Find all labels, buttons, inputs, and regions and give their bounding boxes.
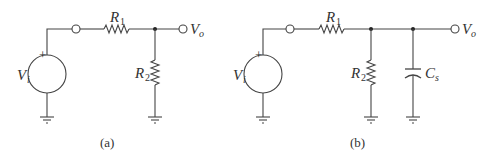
input-terminal-icon: [72, 25, 80, 33]
resistor-r2-icon: [367, 60, 375, 85]
polarity-plus-label: +: [255, 47, 262, 62]
ground-icon: [364, 117, 378, 123]
r1-label-main: R: [325, 9, 335, 25]
resistor-r1-icon: [104, 25, 129, 33]
circuit-a: + V i R 1 R 2 V o (a): [17, 9, 204, 150]
ground-icon: [148, 117, 162, 123]
output-label-sub: o: [471, 28, 476, 39]
resistor-r2-icon: [151, 60, 159, 85]
r1-label-main: R: [109, 9, 119, 25]
ground-icon: [256, 117, 270, 123]
caption-a: (a): [100, 135, 114, 150]
input-terminal-icon: [286, 25, 294, 33]
source-label-sub: i: [243, 74, 246, 85]
r2-label-main: R: [350, 65, 360, 81]
r2-label-sub: 2: [145, 72, 150, 83]
polarity-plus-label: +: [39, 47, 46, 62]
output-label-sub: o: [199, 28, 204, 39]
output-terminal-icon: [179, 25, 187, 33]
r1-label-sub: 1: [120, 16, 125, 27]
r2-label-main: R: [134, 65, 144, 81]
ground-icon: [40, 117, 54, 123]
circuit-b: + V i R 1 R 2 C s V o (b): [233, 9, 476, 150]
caption-b: (b): [350, 135, 365, 150]
wire-source-to-terminal: [47, 29, 72, 55]
r2-label-sub: 2: [361, 72, 366, 83]
output-terminal-icon: [451, 25, 459, 33]
r1-label-sub: 1: [336, 16, 341, 27]
source-label-sub: i: [27, 74, 30, 85]
wire-source-to-terminal: [263, 29, 286, 55]
voltage-source-icon: [28, 55, 66, 93]
voltage-source-icon: [244, 55, 282, 93]
capacitor-label-sub: s: [435, 72, 439, 83]
ground-icon: [406, 117, 420, 123]
